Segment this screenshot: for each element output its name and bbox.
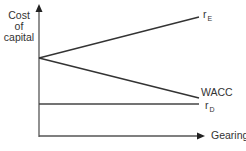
wacc-line xyxy=(39,58,199,98)
wacc-label: WACC xyxy=(201,86,233,98)
y-label-line-3: capital xyxy=(2,32,36,43)
x-axis-arrow-icon xyxy=(197,133,205,140)
chart-canvas xyxy=(0,0,246,151)
re-line xyxy=(39,17,199,58)
rd-label-sub: D xyxy=(210,106,215,113)
re-label-main: r xyxy=(203,8,207,20)
rd-label: rD xyxy=(205,99,215,111)
y-axis-arrow-icon xyxy=(36,4,43,12)
y-axis-label: Cost of capital xyxy=(2,10,36,43)
re-label-sub: E xyxy=(208,15,213,22)
re-label: rE xyxy=(203,8,212,20)
x-axis-label: Gearing xyxy=(211,129,246,141)
rd-label-main: r xyxy=(205,99,209,111)
